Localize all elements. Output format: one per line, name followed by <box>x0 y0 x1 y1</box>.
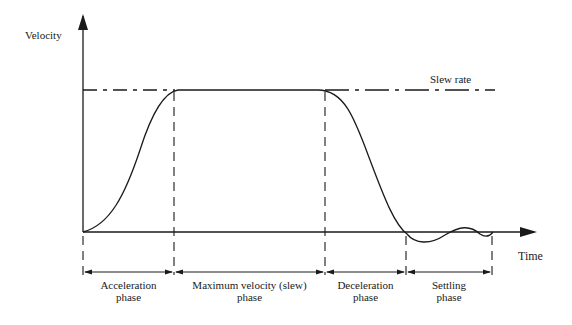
phase-label-deceleration: Deceleration phase <box>325 279 406 303</box>
velocity-profile-diagram <box>0 0 572 325</box>
phase-label-max-velocity: Maximum velocity (slew) phase <box>174 279 325 303</box>
slew-rate-label: Slew rate <box>430 73 471 85</box>
y-axis-label: Velocity <box>25 29 62 41</box>
phase-label-settling: Settling phase <box>406 279 492 303</box>
phase-label-acceleration: Acceleration phase <box>83 279 174 303</box>
x-axis-label: Time <box>518 250 543 262</box>
velocity-curve <box>83 90 493 242</box>
